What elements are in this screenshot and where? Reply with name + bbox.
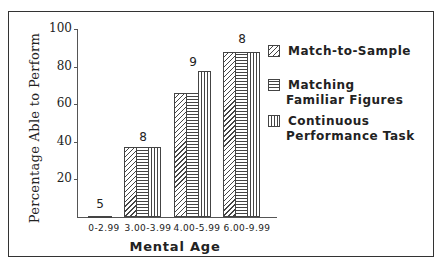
y-axis-line	[77, 29, 78, 217]
legend-label-line2: Performance Task	[286, 129, 415, 144]
y-tick-label-100: 100	[42, 21, 72, 35]
y-tick-20	[74, 179, 78, 180]
x-category-0-2.99: 0-2.99	[88, 223, 119, 233]
horizontal-hatch-swatch-icon	[268, 79, 280, 91]
x-axis-label: Mental Age	[129, 239, 220, 254]
legend-label-line1: Continuous	[288, 114, 369, 129]
bar-continuous-performance-group-4	[247, 52, 260, 217]
n-label-group-2: 8	[139, 130, 147, 144]
y-tick-label-40: 40	[42, 134, 72, 148]
y-tick-label-80: 80	[42, 59, 72, 73]
x-category-3.00-3.99: 3.00-3.99	[125, 223, 172, 233]
x-category-4.00-5.99: 4.00-5.99	[174, 223, 221, 233]
bar-continuous-performance-group-2	[148, 147, 161, 217]
legend-label: Match-to-Sample	[288, 44, 411, 59]
x-category-6.00-9.99: 6.00-9.99	[224, 223, 271, 233]
vertical-hatch-swatch-icon	[268, 115, 280, 127]
y-tick-40	[74, 142, 78, 143]
n-label-group-4: 8	[238, 32, 246, 46]
bar-group-1	[88, 216, 112, 218]
legend-label-line2: Familiar Figures	[286, 93, 403, 108]
legend-label-line1: Matching	[288, 78, 355, 93]
diagonal-hatch-swatch-icon	[268, 45, 280, 57]
y-tick-100	[74, 29, 78, 30]
y-tick-label-20: 20	[42, 171, 72, 185]
n-label-group-3: 9	[189, 55, 197, 69]
n-label-group-1: 5	[96, 197, 104, 211]
y-tick-label-60: 60	[42, 96, 72, 110]
y-tick-60	[74, 104, 78, 105]
y-axis-label: Percentage Able to Perform	[27, 33, 42, 223]
bar-continuous-performance-group-3	[198, 71, 211, 217]
y-tick-80	[74, 67, 78, 68]
